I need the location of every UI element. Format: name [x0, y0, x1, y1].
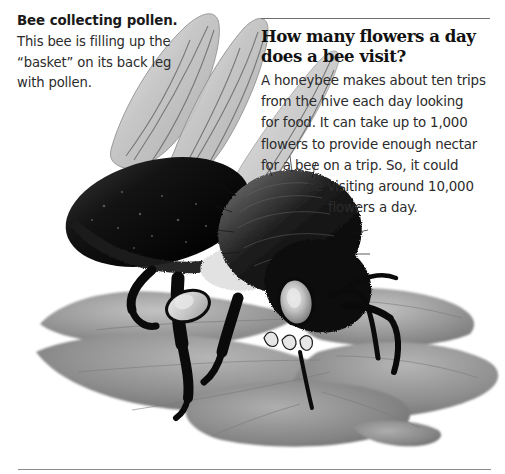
article-body-line-7: flowers a day.	[261, 197, 493, 218]
caption-line-1: This bee is filling up the	[17, 32, 232, 53]
article-body-line-1: A honeybee makes about ten trips	[261, 70, 493, 91]
page-bottom-rule	[18, 469, 491, 470]
article-heading-line-1: How many flowers a day	[261, 26, 493, 46]
article-body-line-6: be visiting around 10,000	[261, 176, 493, 197]
bee-abdomen	[55, 140, 262, 284]
caption-block: Bee collecting pollen. This bee is filli…	[17, 12, 232, 94]
caption-heading: Bee collecting pollen.	[17, 12, 232, 30]
pollen-basket	[162, 285, 213, 327]
article-body-line-4: flowers to provide enough nectar	[261, 134, 493, 155]
article-block: How many flowers a day does a bee visit?…	[261, 18, 493, 218]
caption-body: This bee is filling up the “basket” on i…	[17, 32, 232, 94]
bee-head	[253, 227, 382, 408]
article-top-rule	[261, 18, 490, 19]
article-body-line-5: for a bee on a trip. So, it could	[261, 155, 493, 176]
article-body-line-3: for food. It can take up to 1,000	[261, 112, 493, 133]
article-body: A honeybee makes about ten trips from th…	[261, 70, 493, 218]
bee-antenna	[330, 275, 396, 358]
flower-petals	[36, 288, 498, 447]
petal-veins	[78, 300, 478, 436]
page-root: Bee collecting pollen. This bee is filli…	[0, 0, 505, 474]
bee-band	[200, 242, 296, 291]
caption-line-2: “basket” on its back leg	[17, 53, 232, 74]
article-body-line-2: from the hive each day looking	[261, 91, 493, 112]
article-heading: How many flowers a day does a bee visit?	[261, 26, 493, 66]
caption-line-3: with pollen.	[17, 73, 232, 94]
bee-legs	[131, 270, 398, 418]
article-heading-line-2: does a bee visit?	[261, 46, 493, 66]
